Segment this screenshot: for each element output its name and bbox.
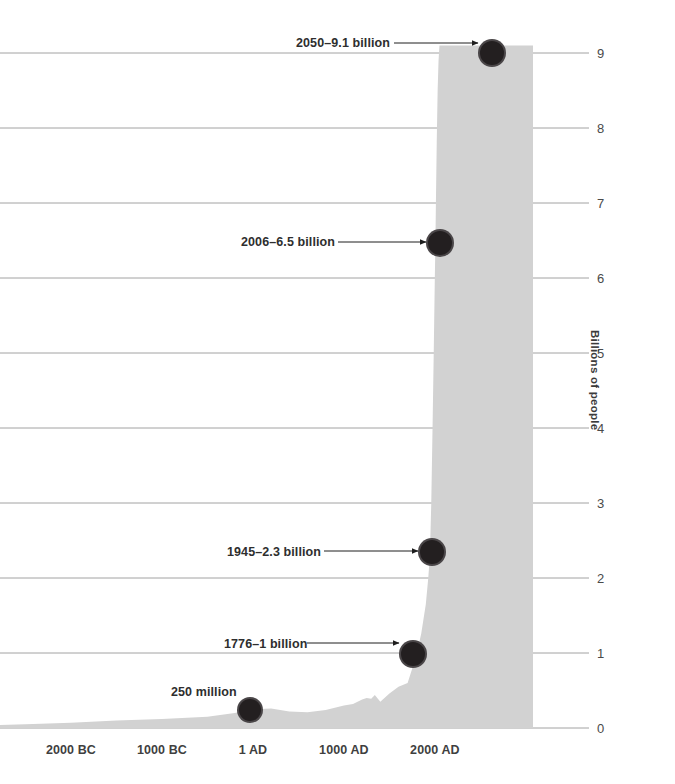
data-point-marker	[239, 699, 261, 721]
y-axis-tick-label: 7	[597, 197, 621, 210]
annotation-label: 2050–9.1 billion	[296, 37, 390, 50]
data-point-marker	[420, 540, 444, 564]
plot-area	[0, 0, 675, 784]
y-axis-tick-label: 2	[597, 572, 621, 585]
y-axis-tick-label: 6	[597, 272, 621, 285]
area-series-world-population	[0, 46, 533, 729]
annotation-label: 2006–6.5 billion	[241, 236, 335, 249]
y-axis-title: Billions of people	[589, 330, 601, 470]
data-point-marker	[401, 642, 425, 666]
annotation-label: 250 million	[171, 686, 237, 699]
y-axis-tick-label: 8	[597, 122, 621, 135]
y-axis-tick-label: 3	[597, 497, 621, 510]
area-fill	[0, 46, 533, 729]
chart-canvas	[0, 0, 675, 784]
data-point-marker	[428, 231, 452, 255]
y-axis-tick-label: 0	[597, 722, 621, 735]
x-axis-tick-label: 2000 AD	[380, 744, 490, 757]
data-point-marker	[480, 41, 504, 65]
y-axis-tick-label: 1	[597, 647, 621, 660]
y-axis-tick-label: 9	[597, 47, 621, 60]
annotation-label: 1776–1 billion	[224, 638, 307, 651]
annotation-label: 1945–2.3 billion	[227, 546, 321, 559]
population-growth-chart: 0123456789 Billions of people 2000 BC100…	[0, 0, 675, 784]
